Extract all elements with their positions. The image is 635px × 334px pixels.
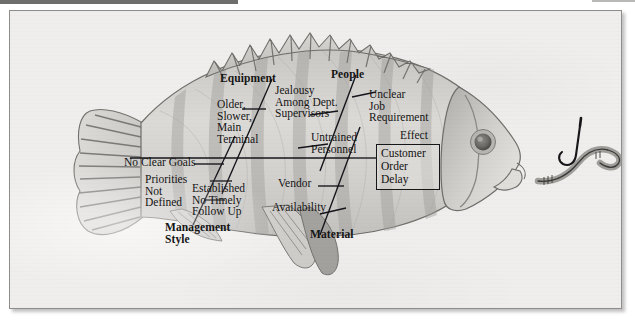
fish-head	[441, 87, 525, 211]
cause-unclear-job-requirement: Unclear Job Requirement	[369, 89, 428, 124]
cause-no-clear-goals: No Clear Goals	[124, 157, 196, 169]
cause-jealousy-among-dept-supervisors: Jealousy Among Dept. Supervisors	[275, 85, 338, 120]
cause-untrained-personnel: Untrained Personnel	[311, 132, 357, 155]
cause-priorities-not-defined: Priorities Not Defined	[145, 174, 187, 209]
worm-on-hook-bait	[538, 118, 620, 185]
fishbone-illustration	[10, 11, 621, 308]
cause-vendor: Vendor	[278, 178, 311, 190]
category-label-material: Material	[310, 229, 354, 241]
screenshot-root: Equipment Older, Slower, Main Terminal P…	[0, 0, 635, 334]
eye	[471, 130, 496, 155]
cause-availability: Availability	[272, 202, 326, 214]
effect-box: Customer Order Delay	[376, 144, 440, 190]
category-label-equipment: Equipment	[220, 73, 276, 85]
cause-older-slower-main-terminal: Older, Slower, Main Terminal	[217, 99, 258, 146]
fishbone-diagram-plate: Equipment Older, Slower, Main Terminal P…	[9, 10, 622, 309]
scan-edge-artifact-top-right	[592, 0, 635, 2]
effect-caption: Effect	[400, 130, 428, 142]
category-label-people: People	[331, 69, 364, 81]
cause-established-no-timely-follow-up: Established No Timely Follow Up	[192, 183, 245, 218]
category-label-management-style: Management Style	[165, 222, 231, 245]
tail-fin	[74, 110, 148, 235]
scan-edge-artifact-top	[0, 0, 238, 4]
